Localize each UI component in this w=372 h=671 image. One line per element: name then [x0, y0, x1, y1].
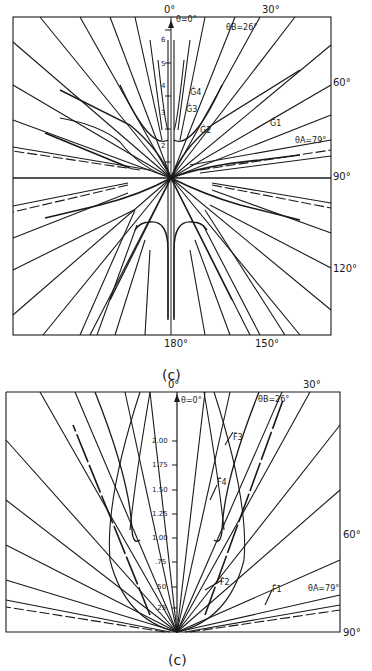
top-tick-3: 3: [161, 109, 165, 117]
top-tick-2: 2: [161, 142, 165, 150]
bottom-f1-label: F̂1: [272, 584, 282, 594]
bottom-y-ticks: [172, 441, 177, 608]
top-angle-30: 30°: [262, 4, 280, 15]
bottom-tick-175: 1.75: [152, 461, 168, 469]
bottom-tick-075: .75: [155, 558, 166, 566]
top-angle-0: 0°: [164, 4, 175, 15]
bottom-tick-200: 2.00: [152, 437, 168, 445]
bottom-tick-150: 1.50: [152, 486, 168, 494]
top-g3-label: Ĝ3: [186, 103, 197, 114]
bottom-tick-050: .50: [155, 583, 166, 591]
bottom-tick-125: 1.25: [152, 510, 168, 518]
top-angle-120: 120°: [333, 263, 357, 274]
top-g4-label: Ĝ4: [190, 86, 201, 97]
bottom-f2-label: F̂2: [220, 577, 230, 587]
bottom-f4-label: F̂4: [217, 477, 227, 487]
top-tick-5: 5: [161, 60, 165, 68]
top-angle-150: 150°: [255, 338, 279, 349]
top-thetaA-label: θA=79°: [295, 136, 326, 145]
figure-canvas: 0° 30° 60° 90° 120° 150° 180° θ=0° θB=26…: [0, 0, 372, 671]
bottom-tick-025: .25: [155, 604, 166, 612]
bottom-tick-100: 1.00: [152, 534, 168, 542]
bottom-theta0-label: θ=0°: [181, 396, 202, 405]
top-angle-180: 180°: [164, 338, 188, 349]
top-thetaB-label: θB=26°: [226, 23, 257, 32]
bottom-angle-30: 30°: [303, 379, 321, 390]
bottom-angle-0: 0°: [168, 379, 179, 390]
top-tick-6: 6: [161, 36, 166, 44]
top-g2-label: Ĝ2: [200, 124, 211, 135]
bottom-caption: (c): [168, 652, 187, 668]
bottom-angle-90: 90°: [343, 627, 361, 638]
top-theta0-label: θ=0°: [176, 15, 197, 24]
top-g1-label: Ĝ1: [270, 117, 281, 128]
top-angle-60: 60°: [333, 77, 351, 88]
top-angle-90: 90°: [333, 171, 351, 182]
top-tick-4: 4: [161, 82, 166, 90]
bottom-diagram: [6, 392, 340, 632]
top-diagram: [13, 17, 331, 335]
bottom-f3-label: F̂3: [233, 432, 243, 442]
bottom-angle-60: 60°: [343, 529, 361, 540]
bottom-thetaA-label: θA=79°: [308, 584, 339, 593]
bottom-thetaB-label: θB=26°: [258, 395, 289, 404]
